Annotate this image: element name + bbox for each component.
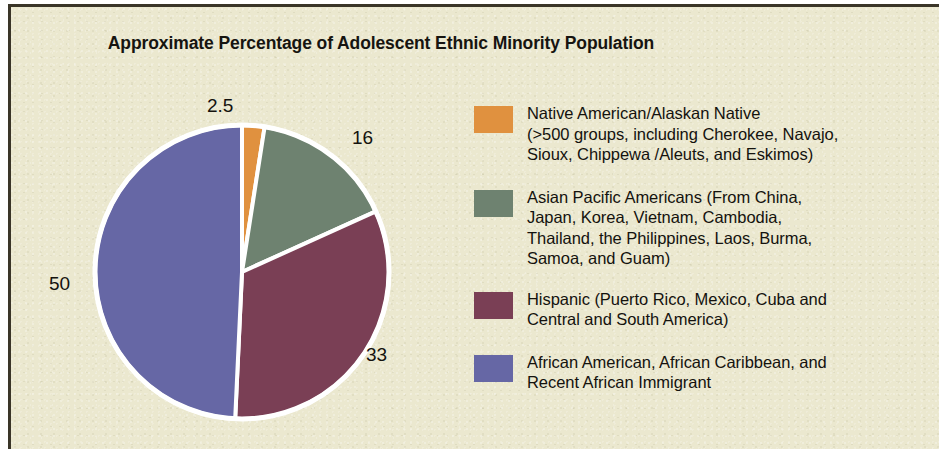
legend-item-asian-pacific: Asian Pacific Americans (From China, Jap… (474, 187, 939, 269)
legend-label-hispanic: Hispanic (Puerto Rico, Mexico, Cuba and … (527, 289, 827, 330)
pie-svg (87, 117, 397, 427)
legend-label-asian-pacific: Asian Pacific Americans (From China, Jap… (527, 187, 812, 269)
legend-swatch-native-american (474, 106, 513, 133)
chart-panel: Approximate Percentage of Adolescent Eth… (8, 4, 939, 449)
legend-swatch-african-american (474, 355, 513, 382)
pie-slices (95, 125, 389, 419)
pie-slice (95, 125, 242, 419)
legend-item-native-american: Native American/Alaskan Native (>500 gro… (474, 103, 939, 165)
pie-chart-figure: Approximate Percentage of Adolescent Eth… (0, 0, 939, 449)
legend-item-african-american: African American, African Caribbean, and… (474, 352, 939, 393)
chart-legend: Native American/Alaskan Native (>500 gro… (474, 103, 939, 393)
legend-item-hispanic: Hispanic (Puerto Rico, Mexico, Cuba and … (474, 289, 939, 330)
legend-swatch-asian-pacific (474, 190, 513, 217)
slice-label-hispanic: 33 (366, 344, 387, 366)
legend-swatch-hispanic (474, 292, 513, 319)
slice-label-asian-pacific: 16 (352, 127, 373, 149)
legend-label-native-american: Native American/Alaskan Native (>500 gro… (527, 103, 838, 165)
chart-title: Approximate Percentage of Adolescent Eth… (31, 33, 731, 54)
pie-graphic (87, 117, 397, 427)
slice-label-native-american: 2.5 (207, 95, 233, 117)
legend-label-african-american: African American, African Caribbean, and… (527, 352, 827, 393)
slice-label-african-american: 50 (49, 273, 70, 295)
